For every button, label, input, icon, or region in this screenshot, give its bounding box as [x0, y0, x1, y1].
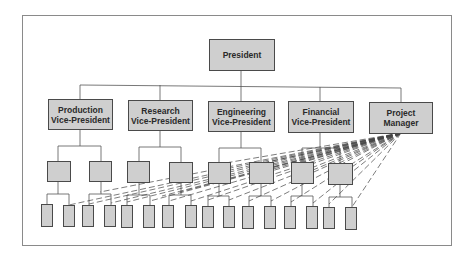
vp-line1: Production: [51, 105, 110, 115]
level4-unit: [143, 205, 155, 228]
level4-unit: [104, 205, 116, 227]
level3-unit: [47, 161, 71, 182]
president-box: President: [209, 39, 275, 71]
level4-unit: [306, 206, 318, 229]
level4-unit: [242, 206, 254, 229]
pm-line1: Project: [384, 108, 419, 118]
level3-unit: [169, 162, 193, 183]
level4-unit: [264, 206, 276, 229]
level4-unit: [63, 205, 75, 227]
level4-unit: [121, 205, 133, 228]
level3-unit: [127, 161, 150, 183]
level4-unit: [223, 206, 235, 228]
vp-line2: Vice-President: [292, 117, 351, 127]
level4-unit: [284, 206, 296, 229]
project-manager-box: ProjectManager: [369, 102, 433, 134]
vp-line2: Vice-President: [212, 117, 271, 127]
level4-unit: [41, 204, 53, 227]
level4-unit: [185, 205, 197, 228]
level3-unit: [291, 162, 314, 184]
level3-unit: [89, 161, 112, 182]
vp-line2: Vice-President: [51, 115, 110, 125]
level4-unit: [162, 205, 174, 228]
vp-line2: Vice-President: [131, 116, 190, 126]
level3-unit: [249, 162, 274, 184]
level3-unit: [328, 163, 353, 185]
production-vp-box: ProductionVice-President: [48, 99, 113, 130]
level4-unit: [345, 207, 357, 230]
level4-unit: [82, 205, 94, 227]
level4-unit: [323, 207, 335, 229]
engineering-vp-box: EngineeringVice-President: [208, 101, 275, 132]
vp-line1: Engineering: [212, 107, 271, 117]
president-label: President: [223, 50, 262, 60]
level3-unit: [208, 162, 231, 184]
research-vp-box: ResearchVice-President: [128, 100, 193, 131]
pm-line2: Manager: [384, 118, 419, 128]
vp-line1: Research: [131, 106, 190, 116]
vp-line1: Financial: [292, 107, 351, 117]
level4-unit: [202, 206, 214, 228]
financial-vp-box: FinancialVice-President: [288, 101, 354, 133]
